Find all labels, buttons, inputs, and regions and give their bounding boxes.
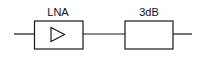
lna-label: LNA xyxy=(47,6,69,18)
block-diagram: LNA 3dB xyxy=(0,0,206,80)
attenuator-box xyxy=(125,21,173,49)
lna-block: LNA xyxy=(35,6,84,49)
attenuator-label: 3dB xyxy=(139,6,159,18)
amplifier-triangle-icon xyxy=(51,28,65,42)
attenuator-block: 3dB xyxy=(125,6,173,49)
lna-box xyxy=(35,21,84,49)
